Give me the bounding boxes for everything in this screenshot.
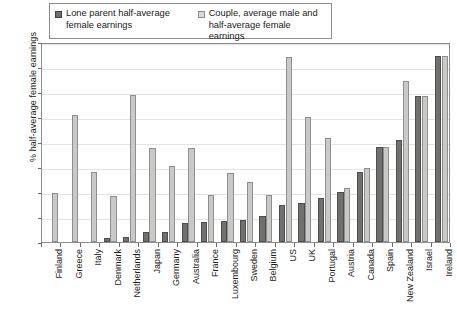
x-axis-label-germany: Germany: [171, 249, 181, 286]
bar-lone-parent: [376, 147, 382, 242]
bar-lone-parent: [104, 238, 110, 242]
chart-legend: Lone parent half-averagefemale earnings …: [49, 3, 332, 39]
x-axis-tick-mark: [392, 243, 393, 247]
x-axis-label-new-zealand: New Zealand: [405, 249, 415, 302]
x-axis-label-uk: UK: [307, 249, 317, 262]
x-axis-tick-mark: [41, 243, 42, 247]
legend-item-couple: Couple, average male andhalf-average fem…: [198, 8, 326, 43]
bar-lone-parent: [123, 237, 129, 242]
x-axis-label-israel: Israel: [424, 249, 434, 271]
bar-couple: [383, 147, 389, 242]
y-axis-title: % half-average female earnings: [28, 2, 38, 192]
x-axis-label-ireland: Ireland: [444, 249, 454, 277]
x-axis-label-japan: Japan: [152, 249, 162, 274]
x-axis-tick-mark: [353, 243, 354, 247]
x-axis-tick-mark: [411, 243, 412, 247]
x-axis-tick-mark: [314, 243, 315, 247]
bar-couple: [149, 148, 155, 242]
y-axis-tick-mark: [38, 193, 41, 194]
x-axis: FinlandGreeceItalyDenmarkNetherlandsJapa…: [41, 243, 450, 313]
x-axis-label-denmark: Denmark: [113, 249, 123, 286]
x-axis-tick-mark: [138, 243, 139, 247]
bar-couple: [266, 195, 272, 243]
x-axis-tick-mark: [333, 243, 334, 247]
x-axis-tick-mark: [158, 243, 159, 247]
bar-couple: [305, 117, 311, 242]
x-axis-label-netherlands: Netherlands: [132, 249, 142, 298]
bar-couple: [72, 115, 78, 243]
y-axis-tick-mark: [38, 218, 41, 219]
x-axis-label-spain: Spain: [385, 249, 395, 272]
x-axis-label-italy: Italy: [93, 249, 103, 266]
x-axis-tick-mark: [275, 243, 276, 247]
bar-couple: [364, 168, 370, 242]
x-axis-label-luxembourg: Luxembourg: [230, 249, 240, 299]
x-axis-tick-mark: [255, 243, 256, 247]
x-axis-label-finland: Finland: [54, 249, 64, 279]
y-axis-tick-mark: [38, 143, 41, 144]
x-axis-label-austria: Austria: [346, 249, 356, 277]
bar-couple: [344, 188, 350, 242]
bar-couple: [130, 95, 136, 243]
bar-couple: [422, 96, 428, 242]
bar-couple: [247, 182, 253, 242]
x-axis-tick-mark: [372, 243, 373, 247]
bar-couple: [91, 172, 97, 242]
y-axis-tick-mark: [38, 43, 41, 44]
bar-lone-parent: [182, 223, 188, 242]
bar-lone-parent: [318, 198, 324, 242]
x-axis-label-greece: Greece: [74, 249, 84, 279]
bar-lone-parent: [279, 205, 285, 243]
bar-couple: [442, 56, 448, 242]
bar-lone-parent: [143, 232, 149, 242]
legend-item-lone-parent: Lone parent half-averagefemale earnings: [55, 8, 198, 43]
x-axis-tick-mark: [177, 243, 178, 247]
x-axis-tick-mark: [431, 243, 432, 247]
bar-couple: [110, 196, 116, 242]
x-axis-tick-mark: [197, 243, 198, 247]
legend-label-couple: Couple, average male andhalf-average fem…: [209, 8, 326, 43]
chart-root: % half-average female earnings 010203040…: [0, 0, 457, 313]
x-axis-tick-mark: [99, 243, 100, 247]
x-axis-label-france: France: [210, 249, 220, 277]
x-axis-tick-mark: [80, 243, 81, 247]
x-axis-label-portugal: Portugal: [327, 249, 337, 283]
x-axis-label-sweden: Sweden: [249, 249, 259, 282]
x-axis-label-belgium: Belgium: [268, 249, 278, 282]
x-axis-tick-mark: [294, 243, 295, 247]
plot-area: [41, 43, 450, 243]
x-axis-tick-mark: [236, 243, 237, 247]
bar-couple: [403, 81, 409, 242]
bar-lone-parent: [221, 221, 227, 242]
legend-label-lone-parent: Lone parent half-averagefemale earnings: [66, 8, 170, 31]
x-axis-tick-mark: [216, 243, 217, 247]
x-axis-tick-mark: [60, 243, 61, 247]
bar-lone-parent: [162, 232, 168, 242]
bar-couple: [208, 195, 214, 243]
x-axis-tick-mark: [119, 243, 120, 247]
y-axis-tick-mark: [38, 118, 41, 119]
bar-lone-parent: [415, 96, 421, 242]
bar-couple: [325, 138, 331, 242]
x-axis-tick-mark: [450, 243, 451, 247]
y-axis-tick-mark: [38, 93, 41, 94]
bar-lone-parent: [337, 192, 343, 242]
bar-lone-parent: [240, 220, 246, 243]
bar-lone-parent: [435, 56, 441, 242]
bar-couple: [286, 57, 292, 242]
bar-couple: [227, 173, 233, 242]
legend-swatch-light-icon: [198, 11, 205, 18]
bar-couple: [169, 166, 175, 242]
x-axis-label-us: US: [288, 249, 298, 262]
bar-lone-parent: [357, 172, 363, 242]
x-axis-label-australia: Australia: [191, 249, 201, 284]
legend-swatch-dark-icon: [55, 11, 62, 18]
bar-lone-parent: [201, 222, 207, 242]
bar-series-container: [42, 44, 449, 242]
y-axis-tick-mark: [38, 68, 41, 69]
bar-lone-parent: [259, 216, 265, 242]
bar-couple: [188, 148, 194, 242]
bar-couple: [52, 193, 58, 242]
y-axis-tick-mark: [38, 168, 41, 169]
x-axis-label-canada: Canada: [366, 249, 376, 281]
